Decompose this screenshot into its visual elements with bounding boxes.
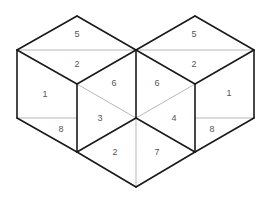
label-right-side: 1: [226, 88, 231, 98]
label-left-side: 1: [42, 89, 47, 99]
label-left-bottom-small: 8: [58, 124, 63, 134]
label-right-inner-upper: 6: [154, 78, 159, 88]
cube-net-diagram: 5 2 1 6 3 8 2 5 2 1 6 4 8 7: [0, 0, 266, 205]
label-bottom-left: 2: [112, 147, 117, 157]
label-left-inner-lower: 3: [97, 113, 102, 123]
label-bottom-right: 7: [154, 147, 159, 157]
label-right-top-lower: 2: [191, 59, 196, 69]
label-left-top-upper: 5: [74, 29, 79, 39]
label-right-inner-lower: 4: [171, 113, 176, 123]
label-right-top-upper: 5: [191, 29, 196, 39]
label-left-inner-upper: 6: [111, 78, 116, 88]
label-left-top-lower: 2: [74, 59, 79, 69]
label-right-bottom-small: 8: [209, 124, 214, 134]
thick-lines: [17, 16, 254, 187]
